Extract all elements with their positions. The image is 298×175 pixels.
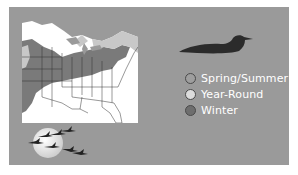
spring-summer-swatch-icon <box>185 73 196 84</box>
legend-item-spring-summer: Spring/Summer <box>185 71 288 86</box>
us-map-icon <box>22 17 138 123</box>
legend-label: Spring/Summer <box>201 72 288 85</box>
year-round-swatch-icon <box>185 89 196 100</box>
legend-label: Winter <box>201 104 238 117</box>
legend-label: Year-Round <box>201 88 263 101</box>
legend: Spring/Summer Year-Round Winter <box>185 71 288 119</box>
range-panel: Spring/Summer Year-Round Winter <box>9 7 289 165</box>
legend-item-winter: Winter <box>185 103 288 118</box>
moon-birds-icon <box>26 125 96 169</box>
winter-swatch-icon <box>185 105 196 116</box>
legend-item-year-round: Year-Round <box>185 87 288 102</box>
loon-silhouette-icon <box>177 34 257 60</box>
range-map <box>22 17 138 123</box>
